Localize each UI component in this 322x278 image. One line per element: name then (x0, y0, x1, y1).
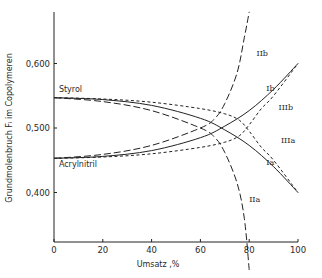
series-label-ib: Ib (266, 84, 274, 93)
series-label-iia: IIa (249, 195, 260, 204)
series-label-iiib: IIIb (278, 103, 293, 112)
x-tick-label: 0 (51, 245, 56, 255)
y-axis-label: Grundmolenbruch Fᵢ im Copolymeren (5, 53, 14, 202)
annotation-acrylnitril: Acrylnitril (59, 160, 97, 169)
series-label-ia: Ia (266, 158, 274, 167)
axes (54, 12, 298, 242)
x-axis-label: Umsatz ,% (137, 260, 180, 269)
y-ticks: 0,4000,5000,600 (26, 59, 57, 198)
x-ticks: 020406080100 (51, 239, 306, 255)
annotation-styrol: Styrol (59, 85, 82, 94)
series-labels: IIbIbIIIbIIIaIaIIa (249, 49, 295, 204)
copolymer-conversion-chart: 020406080100 0,4000,5000,600 IIbIbIIIbII… (0, 0, 322, 278)
curve-iib (54, 12, 249, 158)
x-tick-label: 60 (195, 245, 206, 255)
y-tick-label: 0,600 (26, 59, 50, 69)
series-label-iiia: IIIa (281, 136, 295, 145)
x-tick-label: 100 (290, 245, 306, 255)
y-tick-label: 0,500 (26, 123, 50, 133)
x-tick-label: 80 (244, 245, 255, 255)
x-tick-label: 40 (146, 245, 157, 255)
annotations: StyrolAcrylnitril (59, 85, 97, 169)
y-tick-label: 0,400 (26, 188, 50, 198)
x-tick-label: 20 (97, 245, 108, 255)
series-label-iib: IIb (257, 49, 268, 58)
